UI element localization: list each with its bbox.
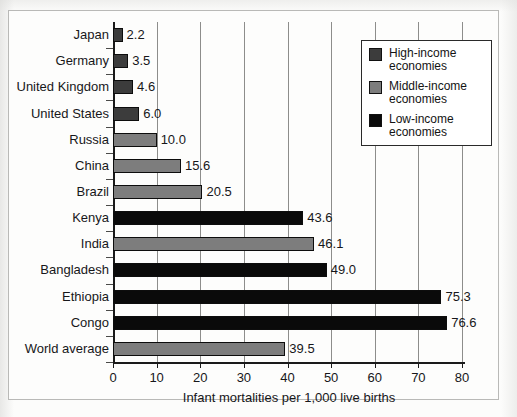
bar-row	[0, 231, 517, 257]
x-tick-label-70: 70	[411, 370, 425, 385]
bar-row	[0, 179, 517, 205]
legend-swatch-middle-income	[369, 81, 382, 94]
x-tick-80	[462, 363, 463, 368]
x-tick-20	[200, 363, 201, 368]
x-tick-30	[244, 363, 245, 368]
bar-row	[0, 336, 517, 362]
x-tick-label-50: 50	[324, 370, 338, 385]
x-axis-title: Infant mortalities per 1,000 live births	[113, 390, 465, 405]
x-tick-label-40: 40	[280, 370, 294, 385]
x-tick-0	[113, 363, 114, 368]
legend-label-middle-income: Middle-income economies	[389, 80, 467, 106]
y-tick	[106, 362, 113, 363]
legend-item-low-income: Low-income economies	[369, 113, 484, 139]
x-tick-label-80: 80	[455, 370, 469, 385]
legend-label-high-income: High-income economies	[389, 47, 456, 73]
bar-row	[0, 153, 517, 179]
bar-row	[0, 284, 517, 310]
x-tick-70	[418, 363, 419, 368]
legend-item-middle-income: Middle-income economies	[369, 80, 484, 106]
legend: High-income economies Middle-income econ…	[361, 40, 492, 146]
x-tick-label-60: 60	[368, 370, 382, 385]
legend-swatch-low-income	[369, 114, 382, 127]
x-tick-label-0: 0	[109, 370, 116, 385]
x-tick-50	[331, 363, 332, 368]
x-tick-label-30: 30	[237, 370, 251, 385]
x-tick-10	[157, 363, 158, 368]
x-tick-40	[288, 363, 289, 368]
infant-mortality-bar-chart: 01020304050607080 Japan2.2Germany3.5Unit…	[0, 0, 517, 417]
x-tick-label-20: 20	[193, 370, 207, 385]
bar-row	[0, 257, 517, 283]
bar-row	[0, 205, 517, 231]
legend-swatch-high-income	[369, 48, 382, 61]
legend-label-low-income: Low-income economies	[389, 113, 454, 139]
x-tick-label-10: 10	[149, 370, 163, 385]
legend-item-high-income: High-income economies	[369, 47, 484, 73]
x-tick-60	[375, 363, 376, 368]
x-axis-line	[113, 362, 465, 364]
bar-row	[0, 310, 517, 336]
